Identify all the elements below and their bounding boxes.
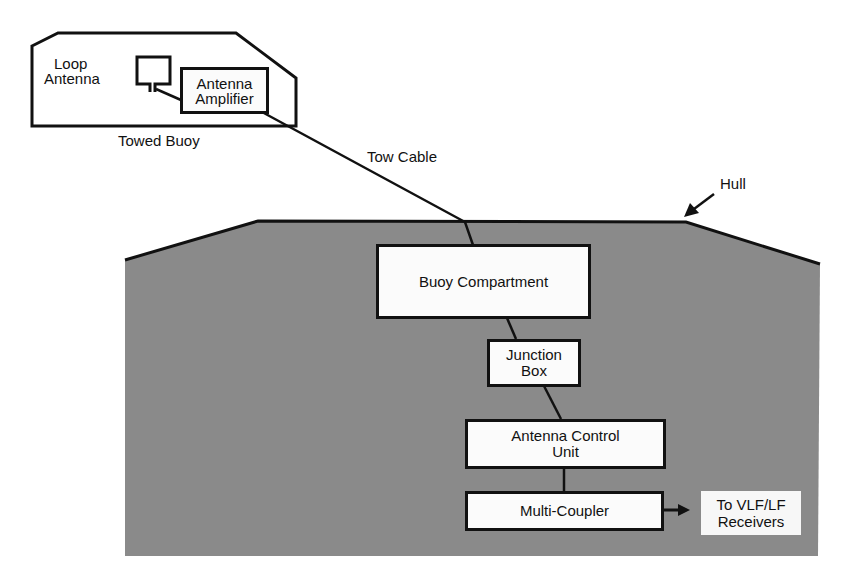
antenna-control-unit-label-line1: Antenna Control [511,428,619,444]
receivers-output-label: To VLF/LF Receivers [701,491,801,535]
buoy-compartment-label: Buoy Compartment [419,274,548,290]
buoy-compartment-block: Buoy Compartment [376,244,591,319]
junction-box-label-line2: Box [521,363,547,379]
hull-label: Hull [720,176,746,191]
antenna-control-unit-label-line2: Unit [552,444,579,460]
hull-pointer-arrow-icon [684,194,714,217]
multi-coupler-label: Multi-Coupler [520,503,609,519]
tow-cable-label: Tow Cable [367,149,437,164]
loop-antenna-label-line2: Antenna [44,71,100,86]
antenna-control-unit-block: Antenna Control Unit [465,419,666,469]
multi-coupler-block: Multi-Coupler [465,491,664,531]
junction-box-label-line1: Junction [506,347,562,363]
antenna-amplifier-label-line1: Antenna [197,76,253,91]
antenna-amplifier-label-line2: Amplifier [195,91,253,106]
antenna-amplifier-block: Antenna Amplifier [180,67,269,114]
junction-box-block: Junction Box [487,339,581,387]
towed-buoy-label: Towed Buoy [118,133,200,148]
loop-antenna-label: Loop Antenna [44,56,100,86]
receivers-output-label-line1: To VLF/LF [716,496,785,513]
receivers-output-label-line2: Receivers [718,513,785,530]
loop-antenna-label-line1: Loop [44,56,100,71]
